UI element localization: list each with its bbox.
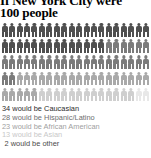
person-leg-right [65,64,67,69]
person-leg-left [39,80,41,85]
person-leg-left [54,32,56,37]
person-leg-right [80,80,82,85]
person-leg-right [117,96,119,101]
person-icon [46,23,53,38]
person-leg-right [13,80,15,85]
person-leg-right [50,64,52,69]
person-icon [105,39,112,54]
person-icon [127,72,134,87]
person-leg-right [109,80,111,85]
person-leg-left [76,96,78,101]
person-leg-left [2,64,4,69]
person-leg-right [72,80,74,85]
person-leg-right [117,48,119,53]
person-icon [23,88,30,103]
person-icon [1,23,8,38]
person-leg-left [9,80,11,85]
person-leg-right [95,80,97,85]
person-leg-right [5,96,7,101]
person-leg-right [124,80,126,85]
person-leg-left [2,32,4,37]
person-leg-left [24,80,26,85]
person-leg-left [121,96,123,101]
person-leg-left [106,48,108,53]
person-icon [31,88,38,103]
person-leg-left [99,32,101,37]
person-icon [135,88,142,103]
person-leg-right [109,64,111,69]
person-leg-left [143,64,145,69]
person-leg-left [69,96,71,101]
person-icon [142,72,149,87]
person-leg-right [102,80,104,85]
person-leg-left [69,48,71,53]
person-leg-right [28,32,30,37]
person-icon [98,23,105,38]
person-icon [83,23,90,38]
person-leg-right [72,64,74,69]
person-icon [120,88,127,103]
person-icon [113,72,120,87]
person-leg-left [61,64,63,69]
person-leg-left [61,32,63,37]
person-icon [113,23,120,38]
person-leg-left [24,48,26,53]
person-icon [127,23,134,38]
person-leg-right [50,80,52,85]
person-icon [23,39,30,54]
person-leg-right [42,48,44,53]
person-leg-left [121,32,123,37]
person-icon [1,39,8,54]
person-leg-right [28,96,30,101]
person-icon [75,55,82,70]
person-icon [127,88,134,103]
person-leg-right [13,96,15,101]
person-icon [120,23,127,38]
person-leg-right [102,96,104,101]
person-leg-right [65,32,67,37]
person-icon [127,55,134,70]
person-leg-left [54,80,56,85]
person-leg-left [32,80,34,85]
person-leg-right [95,96,97,101]
person-leg-right [35,48,37,53]
person-leg-right [50,96,52,101]
person-leg-left [24,32,26,37]
person-leg-left [69,32,71,37]
person-icon [8,23,15,38]
person-icon [98,72,105,87]
person-leg-left [17,32,19,37]
person-leg-left [106,80,108,85]
person-leg-left [143,32,145,37]
person-leg-right [28,48,30,53]
person-leg-left [143,80,145,85]
person-leg-left [2,96,4,101]
person-leg-left [143,96,145,101]
title-line-2: 100 people [0,7,151,19]
person-icon [127,39,134,54]
person-leg-right [102,32,104,37]
person-leg-left [128,80,130,85]
person-leg-left [136,48,138,53]
person-leg-left [24,64,26,69]
person-leg-left [39,64,41,69]
person-leg-left [69,64,71,69]
page-title: If New York City were 100 people [0,0,151,18]
person-icon [8,88,15,103]
person-icon [23,55,30,70]
person-leg-right [95,48,97,53]
person-leg-right [95,32,97,37]
person-icon [135,55,142,70]
pictogram-row [1,23,151,39]
person-leg-left [113,32,115,37]
person-icon [120,55,127,70]
person-icon [90,55,97,70]
person-leg-right [124,64,126,69]
person-icon [61,23,68,38]
person-leg-right [109,48,111,53]
person-icon [113,39,120,54]
person-leg-right [109,32,111,37]
person-icon [135,72,142,87]
person-leg-right [87,64,89,69]
person-leg-right [147,96,149,101]
